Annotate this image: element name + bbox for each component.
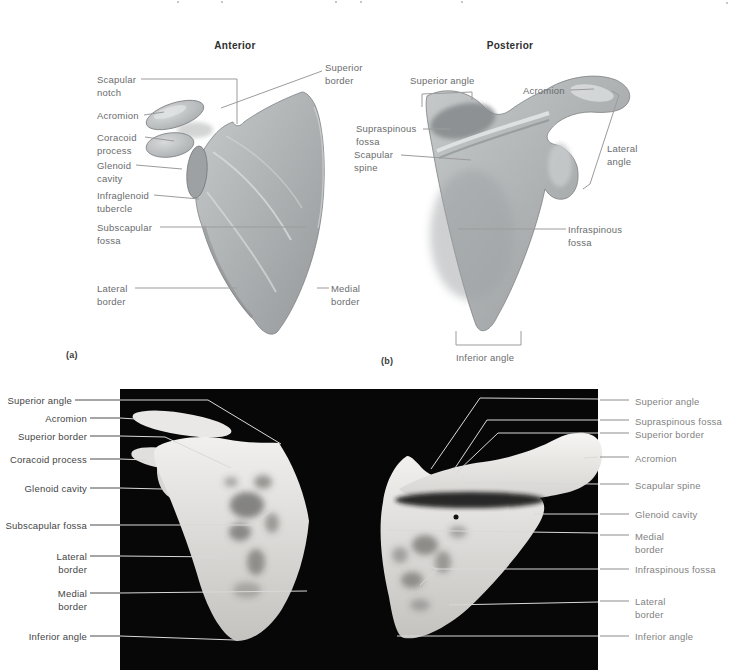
- label-lateral-border-a: Lateral border: [97, 283, 127, 308]
- glenoid-shape-a: [185, 145, 209, 199]
- posterior-scapula-photo: [381, 433, 603, 638]
- photo-left-leader-lines: [120, 400, 307, 640]
- photo-right-leader-dashes: [600, 400, 629, 636]
- photo-label-coracoid-process-left: Coracoid process: [10, 454, 87, 467]
- panel-b-leader-lines: [401, 89, 619, 345]
- coracoid-shape-photo-left: [130, 444, 196, 473]
- supraspinous-fossa-shape: [427, 98, 499, 145]
- photo-label-glenoid-cavity-left: Glenoid cavity: [25, 483, 87, 496]
- cropped-text-fragments: [177, 1, 728, 4]
- label-acromion-a: Acromion: [97, 110, 139, 123]
- photo-label-superior-border-left: Superior border: [18, 431, 87, 444]
- superior-angle-bracket: [422, 92, 472, 107]
- label-scapular-spine-b: Scapular spine: [354, 149, 393, 174]
- photo-label-inferior-angle-left: Inferior angle: [29, 631, 87, 644]
- label-superior-angle-b: Superior angle: [410, 75, 475, 88]
- photo-label-acromion-left: Acromion: [45, 413, 87, 426]
- photo-label-lateral-border-right: Lateral border: [635, 596, 665, 621]
- inferior-angle-bracket: [456, 331, 521, 345]
- photo-label-infraspinous-fossa-right: Infraspinous fossa: [635, 564, 716, 577]
- photo-label-lateral-border-left: Lateral border: [57, 551, 87, 576]
- photo-label-superior-border-right: Superior border: [635, 429, 704, 442]
- photo-label-acromion-right: Acromion: [635, 453, 677, 466]
- label-coracoid-process: Coracoid process: [97, 132, 137, 157]
- panel-a-leader-lines: [135, 71, 329, 288]
- label-medial-border-a: Medial border: [331, 283, 360, 308]
- anterior-scapula-illustration: [143, 92, 324, 334]
- panel-b-letter: (b): [381, 355, 393, 368]
- acromion-shape-photo-left: [131, 405, 233, 442]
- label-infraspinous-fossa-b: Infraspinous fossa: [568, 224, 622, 249]
- photo-label-medial-border-left: Medial border: [58, 588, 87, 613]
- photo-right-leader-lines: [387, 398, 598, 636]
- label-glenoid-cavity-a: Glenoid cavity: [97, 160, 131, 185]
- anterior-scapula-photo: [130, 405, 309, 641]
- photo-label-superior-angle-right: Superior angle: [635, 396, 700, 409]
- label-superior-border-a: Superior border: [325, 62, 363, 87]
- label-scapular-notch: Scapular notch: [97, 74, 136, 99]
- scapula-figure: Anterior Scapular notch Superior border …: [0, 0, 754, 670]
- spine-acromion-shape-photo: [399, 433, 602, 503]
- label-acromion-b: Acromion: [523, 85, 565, 98]
- label-lateral-angle: Lateral angle: [607, 143, 637, 168]
- lateral-angle-bracket: [583, 91, 619, 189]
- photo-label-superior-angle-left: Superior angle: [7, 395, 72, 408]
- panel-a-title: Anterior: [195, 40, 275, 53]
- panel-a-letter: (a): [66, 349, 78, 362]
- photo-label-glenoid-cavity-right: Glenoid cavity: [635, 509, 697, 522]
- scapular-spine-shape: [437, 113, 549, 151]
- photo-label-scapular-spine-right: Scapular spine: [635, 480, 701, 493]
- acromion-shape-a: [143, 94, 207, 135]
- posterior-scapula-illustration: [426, 76, 630, 331]
- label-infraglenoid-tubercle: Infraglenoid tubercle: [97, 190, 149, 215]
- photo-background: [120, 389, 598, 670]
- photo-label-medial-border-right: Medial border: [635, 531, 664, 556]
- label-subscapular-fossa-a: Subscapular fossa: [97, 222, 152, 247]
- photo-label-inferior-angle-right: Inferior angle: [635, 631, 693, 644]
- panel-b-title: Posterior: [470, 40, 550, 53]
- label-supraspinous-fossa-b: Supraspinous fossa: [356, 123, 417, 148]
- label-inferior-angle-b: Inferior angle: [456, 352, 514, 365]
- photo-label-supraspinous-fossa-right: Supraspinous fossa: [635, 416, 722, 429]
- coracoid-shape-a: [145, 130, 196, 160]
- photo-label-subscapular-fossa-left: Subscapular fossa: [5, 520, 87, 533]
